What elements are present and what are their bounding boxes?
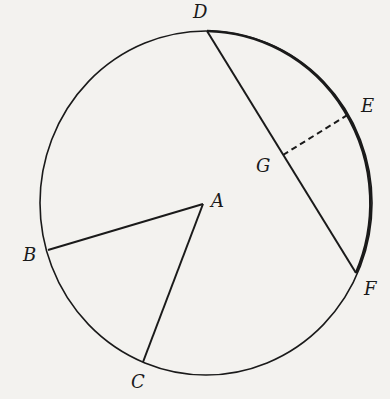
label-d: D xyxy=(193,3,207,21)
label-a: A xyxy=(211,192,224,210)
label-f: F xyxy=(364,280,377,298)
label-g: G xyxy=(256,157,270,175)
chord-df xyxy=(207,31,356,273)
segment-ge-dashed xyxy=(283,114,349,155)
label-b: B xyxy=(23,246,36,264)
radius-ab xyxy=(48,204,203,250)
label-e: E xyxy=(361,97,374,115)
diagram-canvas xyxy=(0,0,390,399)
radius-ac xyxy=(143,204,203,362)
label-c: C xyxy=(131,373,145,391)
circle-diagram: D E G A B F C xyxy=(0,0,390,399)
arc-thick-right xyxy=(207,31,370,273)
